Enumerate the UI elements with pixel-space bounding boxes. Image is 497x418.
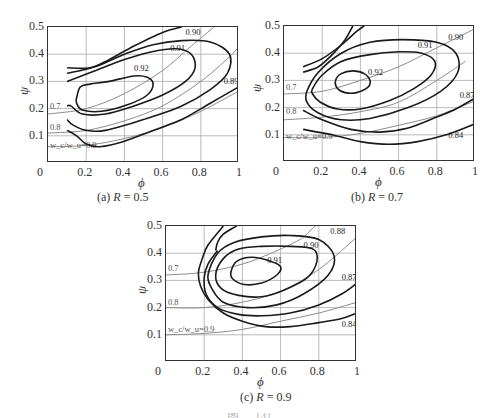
velocity-ratio-label: 0.7 [168,263,179,273]
contour-label: 0.89 [224,76,238,86]
x-tick-label: 0.2 [313,165,328,177]
x-tick-label: 1 [354,365,360,377]
y-tick-label: 0.5 [29,20,44,32]
plot-area-c: 0.70.8w_c/w_u=0.90.910.900.880.870.84 [165,225,356,361]
caption-b: (b) R = 0.7 [351,190,403,205]
contour-label: 0.90 [186,27,201,37]
velocity-ratio-label: w_c/w_u=0.9 [168,324,215,334]
y-tick-label: 0.3 [265,73,280,85]
y-axis-label-a: ψ [16,87,32,95]
contour-label: 0.90 [448,32,463,42]
x-tick-label: 1 [472,165,478,177]
y-tick-label: 0.4 [29,47,44,59]
figure-caption-clipped: 图 … [4] [0,413,497,418]
contour-label: 0.84 [448,130,464,140]
y-tick-label: 0.1 [29,129,44,141]
velocity-ratio-label: 0.7 [286,82,297,92]
velocity-ratio-label: w_c/w_u=0.9 [286,131,333,141]
velocity-ratio-label: 0.8 [286,106,297,116]
x-tick-label: 1 [236,166,242,178]
efficiency-contour [198,226,356,327]
velocity-ratio-label: 0.8 [50,122,61,132]
x-tick-label: 0.8 [192,166,207,178]
x-tick-label: 0.4 [233,365,248,377]
efficiency-contour [303,26,353,72]
contour-svg-a: 0.70.8w_c/w_u=0.90.920.910.900.89 [48,27,238,162]
contour-label: 0.92 [368,67,383,77]
contour-label: 0.87 [342,272,356,282]
x-tick-label: 0 [273,165,279,177]
x-tick-label: 0.8 [428,165,443,177]
y-tick-label: 0.5 [147,219,162,231]
x-tick-label: 0 [37,166,43,178]
velocity-ratio-label: 0.7 [50,101,61,111]
x-tick-label: 0.6 [154,166,169,178]
x-axis-label-a: ϕ [138,175,145,191]
contour-label: 0.87 [460,90,474,100]
x-tick-label: 0.6 [390,165,405,177]
efficiency-contour [305,40,459,121]
velocity-ratio-line [284,29,474,94]
y-tick-label: 0.5 [265,19,280,31]
y-tick-label: 0.2 [147,301,162,313]
x-tick-label: 0.4 [115,166,130,178]
x-tick-label: 0.2 [77,166,92,178]
velocity-ratio-label: 0.8 [168,297,179,307]
x-axis-label-c: ϕ [257,374,264,390]
x-tick-label: 0 [155,365,161,377]
x-tick-label: 0.4 [351,165,366,177]
caption-c: (c) R = 0.9 [240,390,291,405]
y-axis-label-b: ψ [249,84,265,92]
y-tick-label: 0.2 [265,101,280,113]
plot-area-b: 0.70.8w_c/w_u=0.90.920.910.900.870.84 [283,25,474,161]
y-tick-label: 0.1 [147,328,162,340]
efficiency-contour [303,98,474,132]
y-tick-label: 0.3 [29,74,44,86]
y-axis-label-c: ψ [134,286,150,294]
y-tick-label: 0.4 [265,46,280,58]
y-tick-label: 0.1 [265,128,280,140]
y-tick-label: 0.2 [29,102,44,114]
contour-svg-c: 0.70.8w_c/w_u=0.90.910.900.880.870.84 [166,226,356,361]
contour-label: 0.84 [342,319,356,329]
plot-area-a: 0.70.8w_c/w_u=0.90.920.910.900.89 [47,26,238,162]
x-tick-label: 0.6 [272,365,287,377]
contour-label: 0.92 [134,63,149,73]
contour-label: 0.91 [170,43,185,53]
efficiency-contour [335,71,370,93]
x-tick-label: 0.8 [310,365,325,377]
contour-label: 0.91 [267,255,282,265]
contour-svg-b: 0.70.8w_c/w_u=0.90.920.910.900.870.84 [284,26,474,161]
y-tick-label: 0.4 [147,246,162,258]
y-tick-label: 0.3 [147,273,162,285]
contour-label: 0.88 [330,226,345,236]
x-axis-label-b: ϕ [375,174,382,190]
caption-a: (a) R = 0.5 [97,190,148,205]
contour-label: 0.90 [304,240,319,250]
x-tick-label: 0.2 [195,365,210,377]
velocity-ratio-line [166,226,315,275]
